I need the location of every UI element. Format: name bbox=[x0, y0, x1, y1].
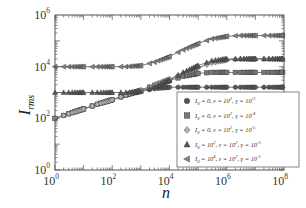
x-tick-label: 106 bbox=[215, 172, 231, 188]
square-marker bbox=[253, 70, 258, 75]
legend: I0 = 0, ε = 102, γ = 10-3I0 = 0, ε = 102… bbox=[177, 92, 299, 167]
svg-text:Irms: Irms bbox=[16, 95, 36, 116]
triangle-left-marker bbox=[118, 64, 123, 69]
circle-marker bbox=[176, 85, 181, 90]
square-marker bbox=[204, 70, 209, 75]
square-marker bbox=[233, 70, 238, 75]
series-line bbox=[55, 36, 284, 67]
triangle-left-marker bbox=[61, 64, 66, 69]
y-tick-label: 106 bbox=[34, 6, 50, 22]
square-marker-legend bbox=[184, 113, 190, 119]
triangle-left-marker bbox=[89, 64, 94, 69]
x-axis-title: n bbox=[162, 184, 170, 201]
square-marker bbox=[262, 70, 267, 75]
y-tick-label: 104 bbox=[34, 58, 50, 74]
circle-marker bbox=[196, 85, 201, 90]
circle-marker-legend bbox=[184, 98, 190, 104]
circle-marker bbox=[253, 85, 258, 90]
circle-marker bbox=[224, 85, 229, 90]
triangle-left-marker bbox=[233, 33, 238, 38]
x-tick-label: 108 bbox=[272, 172, 288, 188]
y-axis-title: Irms bbox=[16, 95, 36, 116]
chart: 100102104106108 100102104106 n Irms I0 =… bbox=[0, 0, 306, 208]
triangle-left-marker bbox=[147, 61, 152, 66]
circle-marker bbox=[167, 85, 172, 90]
triangle-left-marker bbox=[209, 36, 214, 41]
y-axis-title-sub: rms bbox=[25, 95, 36, 110]
square-marker bbox=[196, 71, 201, 76]
circle-marker bbox=[204, 85, 209, 90]
triangle-left-marker bbox=[261, 33, 266, 38]
triangle-left-marker bbox=[175, 50, 180, 55]
triangle-left-marker bbox=[204, 38, 209, 43]
x-tick-label: 102 bbox=[100, 172, 116, 188]
y-tick-label: 102 bbox=[34, 109, 50, 125]
series-triangle-left bbox=[52, 33, 285, 69]
circle-marker bbox=[233, 85, 238, 90]
circle-marker bbox=[262, 85, 267, 90]
square-marker bbox=[224, 70, 229, 75]
y-tick-labels: 100102104106 bbox=[34, 6, 50, 177]
